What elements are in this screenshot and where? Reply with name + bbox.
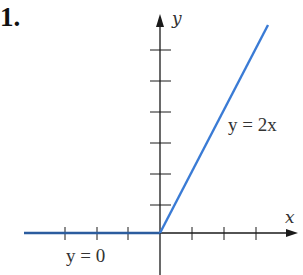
x-axis-arrow-icon: [286, 229, 298, 237]
y-axis-arrow-icon: [156, 14, 164, 27]
y-axis-label: y: [171, 8, 182, 28]
piecewise-graph: y x y = 2x y = 0: [0, 0, 303, 275]
label-y-equals-0: y = 0: [66, 245, 105, 266]
x-axis-label: x: [285, 207, 295, 227]
label-y-equals-2x: y = 2x: [228, 114, 277, 135]
